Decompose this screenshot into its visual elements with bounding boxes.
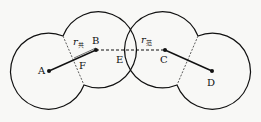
point-b	[94, 48, 98, 52]
label-r-vdw: r范	[141, 35, 152, 46]
label-f: F	[79, 61, 86, 71]
label-b: B	[92, 36, 99, 46]
label-d: D	[207, 78, 215, 88]
r-cov-marker	[74, 48, 96, 58]
bond-cd	[165, 50, 212, 71]
label-a: A	[38, 66, 45, 76]
label-r-covalent: r共	[73, 37, 84, 48]
point-d	[210, 69, 214, 73]
bond-ab	[49, 50, 96, 71]
point-c	[163, 48, 167, 52]
atom-circles	[0, 0, 261, 122]
label-c: C	[160, 55, 168, 65]
circle-b	[63, 12, 136, 88]
label-e: E	[116, 55, 123, 65]
point-a	[47, 69, 51, 73]
diagram: A B C D E F r共 r范	[0, 0, 261, 122]
